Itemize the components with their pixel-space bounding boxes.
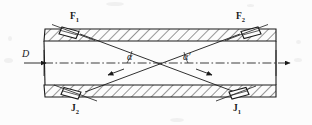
- label-diameter-d: D: [22, 49, 29, 59]
- scan-artifact: [170, 118, 184, 122]
- scan-artifact: [106, 2, 124, 6]
- pipe-top-wall: [44, 29, 276, 41]
- label-transducer-f2: F2: [236, 12, 245, 23]
- label-transducer-j1: J1: [233, 104, 241, 115]
- label-angle-alpha: α: [127, 52, 132, 62]
- label-angle-alpha-prime: α′: [183, 52, 190, 62]
- scan-artifact: [296, 40, 301, 44]
- scan-artifact: [8, 36, 12, 41]
- label-transducer-j2: J2: [71, 104, 79, 115]
- scan-artifact: [4, 58, 13, 63]
- scan-artifact: [247, 4, 254, 7]
- label-transducer-f1: F1: [70, 12, 79, 23]
- figure-canvas: F1 F2 J2 J1 α α′ D: [0, 0, 312, 125]
- scan-artifact: [294, 58, 302, 62]
- pipe-diagram-svg: [0, 0, 312, 125]
